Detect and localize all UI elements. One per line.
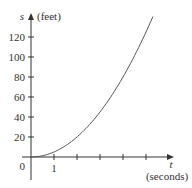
curve-s-of-t — [31, 17, 153, 157]
x-axis-symbol: t — [169, 158, 173, 170]
x-tick-label: 1 — [51, 162, 57, 174]
y-tick-label: 120 — [9, 31, 26, 43]
y-tick-label: 80 — [14, 71, 26, 83]
origin-label: 0 — [20, 160, 26, 172]
y-tick-label: 20 — [14, 131, 26, 143]
x-axis-unit: (seconds) — [146, 170, 188, 183]
y-axis-unit: (feet) — [37, 10, 61, 23]
y-tick-label: 40 — [14, 111, 26, 123]
chart: 20 40 60 80 100 120 0 1 s (feet) t (seco… — [0, 0, 192, 188]
y-tick-label: 100 — [9, 51, 26, 63]
y-axis-arrow-icon — [28, 13, 34, 20]
y-tick-label: 60 — [14, 91, 26, 103]
y-axis-symbol: s — [20, 10, 24, 22]
